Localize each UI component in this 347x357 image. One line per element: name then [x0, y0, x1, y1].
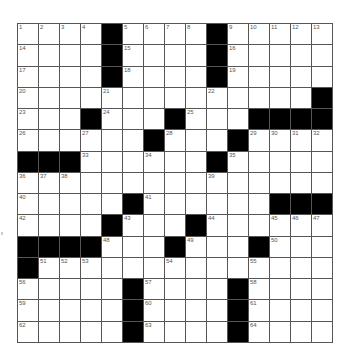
crossword-cell[interactable] — [81, 215, 101, 235]
crossword-cell[interactable]: 31 — [291, 130, 311, 150]
crossword-cell[interactable]: 60 — [144, 300, 164, 320]
crossword-cell[interactable] — [165, 152, 185, 172]
crossword-cell[interactable] — [39, 300, 59, 320]
crossword-cell[interactable]: 18 — [123, 67, 143, 87]
crossword-cell[interactable] — [60, 300, 80, 320]
crossword-cell[interactable]: 13 — [312, 24, 332, 44]
crossword-cell[interactable] — [123, 258, 143, 278]
crossword-cell[interactable] — [270, 279, 290, 299]
crossword-cell[interactable]: 53 — [81, 258, 101, 278]
crossword-cell[interactable] — [39, 215, 59, 235]
crossword-cell[interactable] — [249, 67, 269, 87]
crossword-cell[interactable] — [123, 237, 143, 257]
crossword-cell[interactable]: 9 — [228, 24, 248, 44]
crossword-cell[interactable] — [312, 300, 332, 320]
crossword-cell[interactable] — [291, 258, 311, 278]
crossword-cell[interactable]: 46 — [291, 215, 311, 235]
crossword-cell[interactable] — [186, 279, 206, 299]
crossword-cell[interactable] — [186, 173, 206, 193]
crossword-cell[interactable] — [102, 279, 122, 299]
crossword-cell[interactable]: 29 — [249, 130, 269, 150]
crossword-cell[interactable] — [39, 279, 59, 299]
crossword-cell[interactable] — [144, 258, 164, 278]
crossword-cell[interactable]: 14 — [18, 45, 38, 65]
crossword-cell[interactable] — [39, 45, 59, 65]
crossword-cell[interactable] — [60, 215, 80, 235]
crossword-cell[interactable] — [249, 45, 269, 65]
crossword-cell[interactable] — [207, 237, 227, 257]
crossword-cell[interactable] — [144, 237, 164, 257]
crossword-cell[interactable] — [165, 173, 185, 193]
crossword-cell[interactable]: 45 — [270, 215, 290, 235]
crossword-cell[interactable] — [165, 279, 185, 299]
crossword-cell[interactable]: 27 — [81, 130, 101, 150]
crossword-cell[interactable] — [249, 88, 269, 108]
crossword-cell[interactable]: 37 — [39, 173, 59, 193]
crossword-cell[interactable]: 34 — [144, 152, 164, 172]
crossword-cell[interactable]: 12 — [291, 24, 311, 44]
crossword-cell[interactable] — [270, 173, 290, 193]
crossword-cell[interactable] — [144, 173, 164, 193]
crossword-cell[interactable] — [249, 173, 269, 193]
crossword-cell[interactable] — [228, 88, 248, 108]
crossword-cell[interactable] — [186, 322, 206, 342]
crossword-cell[interactable]: 24 — [102, 109, 122, 129]
crossword-cell[interactable]: 32 — [312, 130, 332, 150]
crossword-cell[interactable] — [186, 67, 206, 87]
crossword-cell[interactable] — [39, 130, 59, 150]
crossword-cell[interactable] — [144, 67, 164, 87]
crossword-cell[interactable]: 22 — [207, 88, 227, 108]
crossword-cell[interactable]: 28 — [165, 130, 185, 150]
crossword-cell[interactable] — [228, 194, 248, 214]
crossword-cell[interactable]: 17 — [18, 67, 38, 87]
crossword-cell[interactable]: 33 — [81, 152, 101, 172]
crossword-cell[interactable] — [60, 322, 80, 342]
crossword-cell[interactable] — [291, 173, 311, 193]
crossword-cell[interactable] — [81, 88, 101, 108]
crossword-cell[interactable]: 5 — [123, 24, 143, 44]
crossword-cell[interactable] — [144, 88, 164, 108]
crossword-cell[interactable]: 63 — [144, 322, 164, 342]
crossword-cell[interactable] — [186, 258, 206, 278]
crossword-cell[interactable] — [60, 194, 80, 214]
crossword-cell[interactable] — [270, 45, 290, 65]
crossword-cell[interactable] — [312, 67, 332, 87]
crossword-cell[interactable] — [102, 300, 122, 320]
crossword-cell[interactable] — [228, 173, 248, 193]
crossword-cell[interactable] — [312, 173, 332, 193]
crossword-cell[interactable] — [228, 258, 248, 278]
crossword-cell[interactable]: 11 — [270, 24, 290, 44]
crossword-cell[interactable] — [291, 45, 311, 65]
crossword-cell[interactable]: 44 — [207, 215, 227, 235]
crossword-cell[interactable]: 21 — [102, 88, 122, 108]
crossword-cell[interactable] — [102, 322, 122, 342]
crossword-cell[interactable]: 8 — [186, 24, 206, 44]
crossword-cell[interactable]: 55 — [249, 258, 269, 278]
crossword-cell[interactable]: 43 — [123, 215, 143, 235]
crossword-cell[interactable] — [39, 109, 59, 129]
crossword-cell[interactable] — [270, 300, 290, 320]
crossword-cell[interactable]: 56 — [18, 279, 38, 299]
crossword-cell[interactable] — [165, 67, 185, 87]
crossword-cell[interactable]: 36 — [18, 173, 38, 193]
crossword-cell[interactable]: 38 — [60, 173, 80, 193]
crossword-cell[interactable]: 25 — [186, 109, 206, 129]
crossword-cell[interactable]: 35 — [228, 152, 248, 172]
crossword-cell[interactable]: 40 — [18, 194, 38, 214]
crossword-cell[interactable] — [81, 194, 101, 214]
crossword-cell[interactable]: 30 — [270, 130, 290, 150]
crossword-cell[interactable]: 64 — [249, 322, 269, 342]
crossword-cell[interactable] — [60, 45, 80, 65]
crossword-cell[interactable]: 52 — [60, 258, 80, 278]
crossword-cell[interactable] — [102, 130, 122, 150]
crossword-cell[interactable]: 20 — [18, 88, 38, 108]
crossword-cell[interactable]: 4 — [81, 24, 101, 44]
crossword-cell[interactable]: 47 — [312, 215, 332, 235]
crossword-cell[interactable] — [60, 88, 80, 108]
crossword-cell[interactable] — [270, 322, 290, 342]
crossword-cell[interactable]: 19 — [228, 67, 248, 87]
crossword-cell[interactable] — [60, 130, 80, 150]
crossword-cell[interactable] — [186, 194, 206, 214]
crossword-cell[interactable]: 62 — [18, 322, 38, 342]
crossword-cell[interactable]: 10 — [249, 24, 269, 44]
